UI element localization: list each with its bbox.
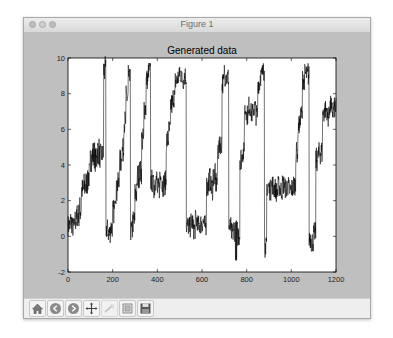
y-tick-label: 8 xyxy=(61,89,65,98)
y-tick-label: -2 xyxy=(58,268,65,277)
x-tick-label: 400 xyxy=(151,275,164,284)
y-tick-label: 6 xyxy=(61,125,65,134)
y-tick-label: 4 xyxy=(61,161,65,170)
x-tick-label: 800 xyxy=(240,275,253,284)
chart-title: Generated data xyxy=(167,45,237,56)
x-tick-label: 0 xyxy=(66,275,70,284)
line-chart: Generated data 020040060080010001200-202… xyxy=(0,0,393,338)
y-tick-label: 0 xyxy=(61,232,65,241)
x-tick-label: 1000 xyxy=(283,275,300,284)
y-tick-label: 2 xyxy=(61,196,65,205)
x-tick-label: 1200 xyxy=(328,275,345,284)
x-tick-label: 200 xyxy=(106,275,119,284)
x-tick-label: 600 xyxy=(196,275,209,284)
y-tick-label: 10 xyxy=(57,54,65,63)
